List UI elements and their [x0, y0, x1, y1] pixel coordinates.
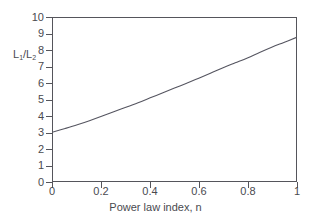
y-axis-tick-label: 7 — [18, 61, 44, 72]
y-axis-tick-label: 6 — [18, 78, 44, 89]
y-axis-tick-label: 3 — [18, 127, 44, 138]
y-axis-tick-label: 4 — [18, 111, 44, 122]
y-axis-tick — [46, 50, 52, 51]
y-axis-tick — [46, 67, 52, 68]
plot-area — [52, 17, 297, 182]
x-axis-tick-label: 1 — [277, 186, 311, 197]
y-axis-tick — [46, 166, 52, 167]
y-axis-tick — [46, 34, 52, 35]
y-axis-tick — [46, 17, 52, 18]
y-axis-tick — [46, 149, 52, 150]
y-axis-tick — [46, 116, 52, 117]
series-line-l1-l2 — [53, 38, 296, 133]
y-axis-tick-label: 5 — [18, 94, 44, 105]
y-axis-tick-label: 9 — [18, 28, 44, 39]
y-axis-tick — [46, 100, 52, 101]
y-axis-tick — [46, 133, 52, 134]
data-curve-canvas — [53, 18, 296, 181]
y-axis-tick-label: 2 — [18, 144, 44, 155]
chart-figure: L1/L2 01234567891000.20.40.60.81 Power l… — [0, 0, 311, 220]
y-axis-tick-label: 10 — [18, 12, 44, 23]
x-axis-title: Power law index, n — [0, 201, 311, 213]
x-axis-tick-label: 0.4 — [130, 186, 170, 197]
y-axis-tick-label: 1 — [18, 160, 44, 171]
x-axis-tick-label: 0 — [32, 186, 72, 197]
y-axis-tick-label: 8 — [18, 45, 44, 56]
x-axis-tick-label: 0.2 — [81, 186, 121, 197]
x-axis-tick-label: 0.8 — [228, 186, 268, 197]
y-axis-tick — [46, 83, 52, 84]
x-axis-tick-label: 0.6 — [179, 186, 219, 197]
